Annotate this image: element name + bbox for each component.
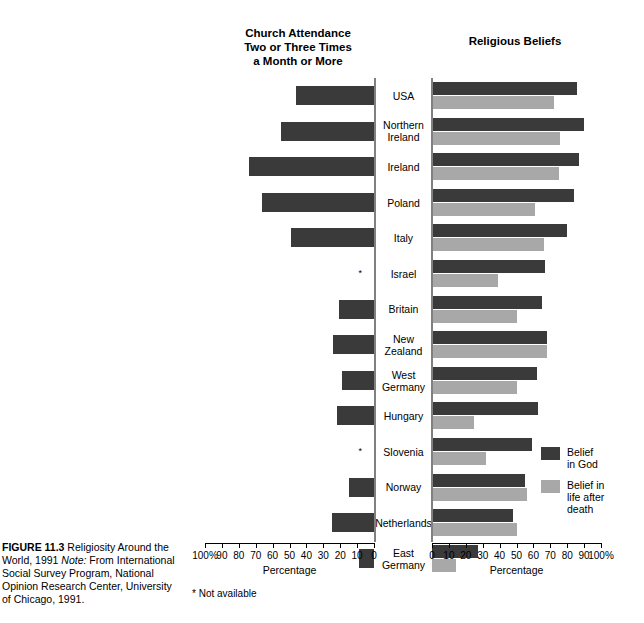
bar-church-attendance [249,157,374,176]
bar-belief-in-god [432,367,537,380]
axis-tick-label: 30 [318,550,329,561]
chart-row: Poland [0,185,644,221]
axis-tick-label: 70 [250,550,261,561]
beliefs-cell [432,327,600,363]
axis-tick [306,543,307,548]
country-label: Northern Ireland [376,114,431,150]
bar-belief-in-god [432,402,538,415]
axis-tick-label: 30 [477,550,488,561]
beliefs-cell [432,114,600,150]
beliefs-cell [432,149,600,185]
attendance-cell [205,114,374,150]
country-label: Poland [376,185,431,221]
chart-legend: Belief in GodBelief in life after death [541,446,641,524]
chart-row: Britain [0,292,644,328]
beliefs-cell [432,398,600,434]
bar-belief-in-life-after-death [432,381,517,394]
left-x-axis: Percentage 100%9080706050403020100 [198,543,382,583]
bar-belief-in-god [432,331,547,344]
attendance-cell [205,327,374,363]
legend-item-belief-in-life-after-death: Belief in life after death [541,479,641,515]
legend-label-belief-in-life-after-death: Belief in life after death [567,479,604,515]
bar-belief-in-life-after-death [432,238,544,251]
bar-belief-in-life-after-death [432,416,474,429]
left-panel-title: Church Attendance Two or Three Times a M… [218,26,378,68]
axis-tick [483,543,484,548]
axis-tick [432,543,433,548]
axis-tick [256,543,257,548]
axis-tick-label: 10 [352,550,363,561]
beliefs-cell [432,185,600,221]
axis-tick-label: 0 [371,550,377,561]
axis-tick [290,543,291,548]
beliefs-cell [432,292,600,328]
not-available-footnote: * Not available [192,588,256,599]
bar-church-attendance [291,228,374,247]
bar-belief-in-life-after-death [432,310,517,323]
chart-row: USA [0,78,644,114]
bar-church-attendance [333,335,374,354]
chart-row: Hungary [0,398,644,434]
axis-tick-label: 20 [335,550,346,561]
axis-tick [500,543,501,548]
bar-belief-in-god [432,474,525,487]
beliefs-cell [432,220,600,256]
axis-tick [466,543,467,548]
figure-note-label: Note: [61,554,86,566]
axis-tick [239,543,240,548]
bar-church-attendance [296,86,374,105]
bar-church-attendance [339,300,374,319]
axis-tick [323,543,324,548]
axis-tick-label: 20 [460,550,471,561]
attendance-cell [205,470,374,506]
beliefs-cell [432,78,600,114]
country-label: Slovenia [376,434,431,470]
bar-belief-in-life-after-death [432,488,527,501]
beliefs-cell [432,256,600,292]
axis-tick-label: 100% [192,550,218,561]
bar-belief-in-life-after-death [432,523,517,536]
right-axis-spine [431,78,433,542]
bar-belief-in-life-after-death [432,167,559,180]
chart-row: West Germany [0,363,644,399]
bar-belief-in-god [432,82,577,95]
bar-belief-in-god [432,260,545,273]
bar-church-attendance [281,122,374,141]
axis-tick-label: 50 [284,550,295,561]
country-label: Ireland [376,149,431,185]
bar-belief-in-god [432,153,579,166]
axis-tick-label: 90 [216,550,227,561]
bar-church-attendance [342,371,374,390]
attendance-cell [205,185,374,221]
chart-row: Ireland [0,149,644,185]
axis-tick-label: 60 [528,550,539,561]
country-label: New Zealand [376,327,431,363]
legend-item-belief-in-god: Belief in God [541,446,641,470]
bar-belief-in-god [432,189,574,202]
bar-church-attendance [337,406,374,425]
axis-tick-label: 10 [443,550,454,561]
right-x-axis: Percentage 0102030405060708090100% [425,543,609,583]
axis-tick [205,543,206,548]
axis-tick [449,543,450,548]
right-axis-caption: Percentage [432,564,601,576]
axis-tick-label: 80 [562,550,573,561]
attendance-cell [205,292,374,328]
bar-church-attendance [349,478,374,497]
country-label: West Germany [376,363,431,399]
chart-row: *Israel [0,256,644,292]
country-label: Hungary [376,398,431,434]
beliefs-cell [432,363,600,399]
attendance-cell [205,363,374,399]
figure-number: FIGURE 11.3 [2,541,64,553]
axis-tick-label: 80 [233,550,244,561]
axis-tick [273,543,274,548]
bar-church-attendance [262,193,374,212]
axis-tick [357,543,358,548]
country-label: USA [376,78,431,114]
bar-church-attendance [332,513,374,532]
bar-belief-in-life-after-death [432,274,498,287]
country-label: East Germany [376,541,431,577]
bar-belief-in-god [432,296,542,309]
bar-belief-in-life-after-death [432,345,547,358]
